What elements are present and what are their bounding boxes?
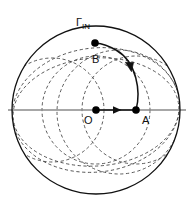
arc-direction-arrowhead xyxy=(124,61,134,72)
point-dot-a xyxy=(132,106,140,114)
vector-oa-arrowhead xyxy=(113,106,122,113)
solid-arc-a-to-b xyxy=(96,43,138,110)
point-dot-origin xyxy=(92,106,100,114)
point-dot-b xyxy=(91,39,99,47)
geometry-canvas xyxy=(0,0,194,200)
geometry-figure: ΓIN O A B xyxy=(0,0,194,200)
